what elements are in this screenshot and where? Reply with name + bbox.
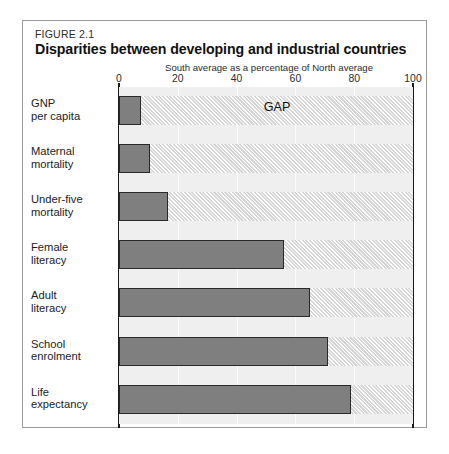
x-tick-label: 80 xyxy=(348,73,360,84)
table-row xyxy=(119,231,413,279)
table-row xyxy=(119,135,413,183)
figure-frame: FIGURE 2.1 Disparities between developin… xyxy=(22,20,427,428)
plot-area: GAP xyxy=(119,87,413,424)
category-label: School enrolment xyxy=(31,338,115,364)
category-label: Under-five mortality xyxy=(31,193,115,219)
x-tick-label: 20 xyxy=(172,73,184,84)
bar xyxy=(119,96,141,125)
table-row xyxy=(119,376,413,424)
category-label: Adult literacy xyxy=(31,289,115,315)
bar xyxy=(119,192,168,221)
table-row xyxy=(119,328,413,376)
table-row xyxy=(119,183,413,231)
bar xyxy=(119,288,310,317)
table-row: GAP xyxy=(119,87,413,135)
category-label: Female literacy xyxy=(31,241,115,267)
page-title: Disparities between developing and indus… xyxy=(35,41,406,57)
bar xyxy=(119,385,351,414)
bar xyxy=(119,144,150,173)
bar xyxy=(119,337,328,366)
x-tick-label: 60 xyxy=(290,73,302,84)
gap-annotation: GAP xyxy=(264,100,291,114)
x-axis-title: South average as a percentage of North a… xyxy=(119,62,419,73)
bar xyxy=(119,240,284,269)
gap-band xyxy=(119,144,413,173)
table-row xyxy=(119,279,413,327)
category-label: GNP per capita xyxy=(31,97,115,123)
category-label: Life expectancy xyxy=(31,386,115,412)
x-tick-label: 40 xyxy=(231,73,243,84)
category-label: Maternal mortality xyxy=(31,145,115,171)
figure-number: FIGURE 2.1 xyxy=(35,28,94,40)
